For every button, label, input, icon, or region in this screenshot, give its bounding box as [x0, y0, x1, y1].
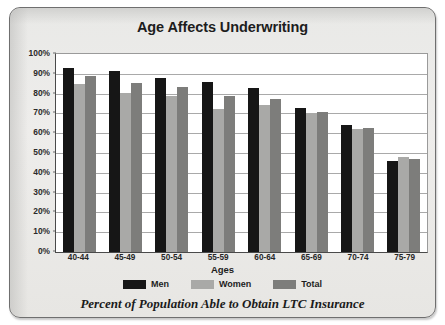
chart-legend: MenWomenTotal: [10, 279, 435, 289]
bar-total-60-64: [270, 99, 281, 252]
bar-group-70-74: [334, 54, 380, 252]
legend-label-total: Total: [301, 279, 322, 289]
legend-swatch-total: [273, 280, 296, 289]
bar-group-40-44: [56, 54, 102, 252]
plot-wrapper: 0%10%20%30%40%50%60%70%80%90%100%: [55, 46, 428, 252]
y-axis-tick-60: 60%: [33, 127, 50, 137]
bar-total-50-54: [177, 87, 188, 252]
y-axis-tick-0: 0%: [38, 246, 50, 256]
bar-women-70-74: [352, 129, 363, 252]
bar-women-60-64: [259, 105, 270, 252]
bar-women-55-59: [213, 109, 224, 252]
chart-card: Age Affects Underwriting 0%10%20%30%40%5…: [9, 7, 436, 318]
y-axis-tick-labels: 0%10%20%30%40%50%60%70%80%90%100%: [13, 46, 53, 252]
bar-men-50-54: [155, 78, 166, 252]
bar-men-60-64: [248, 88, 259, 252]
legend-swatch-men: [123, 280, 146, 289]
bar-women-65-69: [306, 113, 317, 252]
bar-group-60-64: [242, 54, 288, 252]
bar-group-45-49: [102, 54, 148, 252]
chart-title: Age Affects Underwriting: [10, 19, 435, 35]
legend-item-total: Total: [273, 279, 322, 289]
bar-men-70-74: [341, 125, 352, 252]
bar-total-70-74: [363, 128, 374, 252]
chart-caption: Percent of Population Able to Obtain LTC…: [10, 296, 435, 312]
y-axis-tick-30: 30%: [33, 187, 50, 197]
y-axis-tick-10: 10%: [33, 226, 50, 236]
bar-group-55-59: [195, 54, 241, 252]
bar-men-40-44: [63, 68, 74, 252]
bar-total-55-59: [224, 96, 235, 252]
x-axis-title: Ages: [10, 264, 435, 275]
legend-item-women: Women: [191, 279, 251, 289]
bar-women-45-49: [120, 93, 131, 252]
bar-women-40-44: [74, 84, 85, 252]
bar-total-40-44: [85, 76, 96, 252]
y-axis-tick-80: 80%: [33, 88, 50, 98]
bar-group-65-69: [288, 54, 334, 252]
bar-total-65-69: [317, 112, 328, 252]
legend-label-men: Men: [151, 279, 169, 289]
bar-total-45-49: [131, 83, 142, 252]
bar-men-65-69: [295, 108, 306, 252]
bar-men-75-79: [387, 161, 398, 252]
y-axis-tick-70: 70%: [33, 107, 50, 117]
y-axis-tick-20: 20%: [33, 206, 50, 216]
bar-group-50-54: [149, 54, 195, 252]
legend-item-men: Men: [123, 279, 169, 289]
y-axis-tick-40: 40%: [33, 167, 50, 177]
legend-label-women: Women: [219, 279, 251, 289]
bar-women-75-79: [398, 157, 409, 252]
bar-women-50-54: [166, 96, 177, 252]
bar-men-55-59: [202, 82, 213, 252]
bar-men-45-49: [109, 71, 120, 252]
y-axis-tick-100: 100%: [29, 48, 50, 58]
bar-group-75-79: [381, 54, 427, 252]
y-axis-tick-90: 90%: [33, 68, 50, 78]
bar-total-75-79: [409, 159, 420, 252]
plot-area: [55, 53, 428, 253]
legend-swatch-women: [191, 280, 214, 289]
y-axis-tick-50: 50%: [33, 147, 50, 157]
bar-groups: [56, 54, 427, 252]
